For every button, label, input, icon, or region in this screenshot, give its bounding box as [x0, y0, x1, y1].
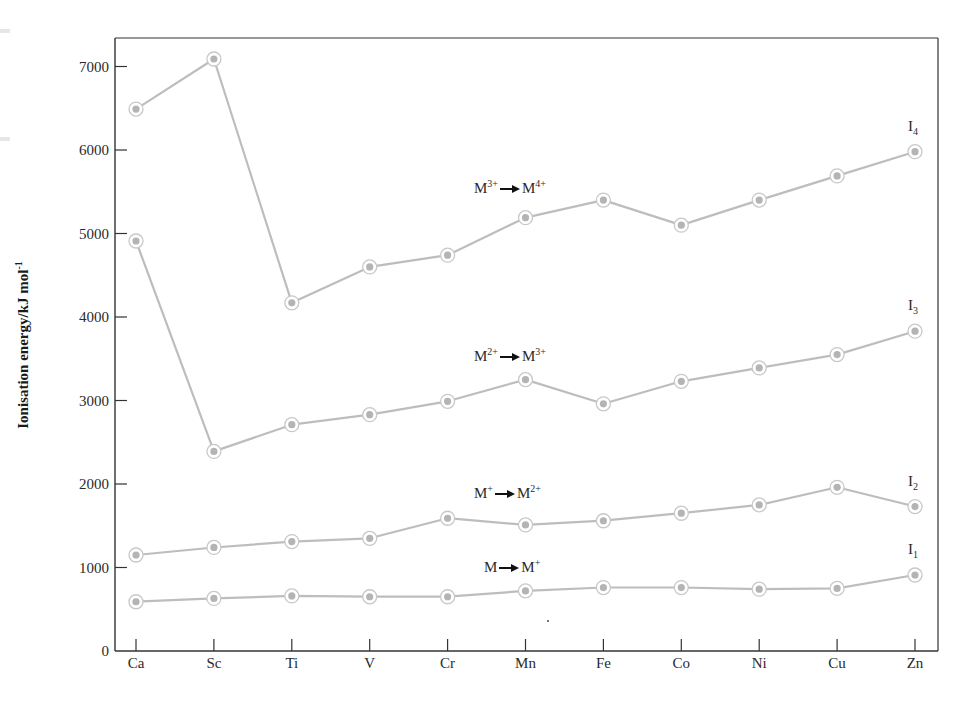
data-point-dot [911, 503, 918, 510]
scan-artifact-mark [0, 29, 10, 33]
data-point-dot [132, 551, 139, 558]
y-tick-label: 6000 [49, 142, 109, 159]
series-label-i1: I1 [908, 541, 918, 560]
x-tick-label-cu: Cu [807, 655, 867, 672]
x-tick-label-ca: Ca [106, 655, 166, 672]
data-point-dot [366, 411, 373, 418]
data-point-dot [366, 535, 373, 542]
data-point-dot [756, 586, 763, 593]
data-point-dot [288, 538, 295, 545]
y-tick-label: 3000 [49, 392, 109, 409]
data-point-dot [834, 585, 841, 592]
arrow-right-icon [500, 183, 520, 193]
data-point-dot [132, 105, 139, 112]
x-tick-label-cr: Cr [418, 655, 478, 672]
data-point-dot [600, 197, 607, 204]
y-tick-label: 5000 [49, 225, 109, 242]
data-point-dot [834, 172, 841, 179]
data-point-dot [210, 448, 217, 455]
data-point-dot [444, 515, 451, 522]
data-point-dot [522, 376, 529, 383]
data-point-dot [834, 484, 841, 491]
data-point-dot [678, 584, 685, 591]
annotation-i1: MM+ [484, 557, 540, 576]
scan-artifact-dot [547, 620, 549, 622]
data-point-dot [366, 263, 373, 270]
x-tick-label-sc: Sc [184, 655, 244, 672]
data-point-dot [288, 592, 295, 599]
x-tick-label-v: V [340, 655, 400, 672]
annotation-i2: M+M2+ [474, 483, 541, 502]
data-point-dot [444, 398, 451, 405]
data-point-dot [210, 595, 217, 602]
data-point-dot [911, 328, 918, 335]
data-point-dot [911, 571, 918, 578]
annotation-i3: M2+M3+ [474, 346, 546, 365]
data-point-dot [600, 584, 607, 591]
data-point-dot [678, 378, 685, 385]
arrow-right-icon [495, 488, 515, 498]
data-point-dot [132, 237, 139, 244]
data-point-dot [522, 521, 529, 528]
data-point-dot [366, 593, 373, 600]
arrow-right-icon [499, 562, 519, 572]
data-point-dot [678, 222, 685, 229]
y-axis-label: Ionisation energy/kJ mol-1 [13, 261, 32, 429]
data-point-dot [210, 55, 217, 62]
series-label-i3: I3 [908, 297, 918, 316]
data-point-dot [678, 510, 685, 517]
data-point-dot [600, 400, 607, 407]
x-tick-label-zn: Zn [885, 655, 945, 672]
data-point-dot [288, 421, 295, 428]
data-point-dot [834, 351, 841, 358]
scan-artifact-mark [0, 137, 10, 141]
x-tick-label-ti: Ti [262, 655, 322, 672]
y-tick-label: 1000 [49, 559, 109, 576]
y-tick-label: 0 [49, 643, 109, 660]
ionisation-energy-chart: Ionisation energy/kJ mol-1 0100020003000… [0, 0, 978, 706]
data-point-dot [522, 214, 529, 221]
y-tick-label: 2000 [49, 476, 109, 493]
series-label-i4: I4 [908, 118, 918, 137]
data-point-dot [444, 252, 451, 259]
x-tick-label-co: Co [651, 655, 711, 672]
data-point-dot [444, 593, 451, 600]
data-point-dot [522, 587, 529, 594]
data-point-dot [756, 197, 763, 204]
arrow-right-icon [500, 351, 520, 361]
data-point-dot [756, 364, 763, 371]
annotation-i4: M3+M4+ [474, 178, 546, 197]
y-tick-label: 4000 [49, 309, 109, 326]
data-point-dot [756, 501, 763, 508]
data-point-dot [600, 517, 607, 524]
series-label-i2: I2 [908, 473, 918, 492]
data-point-dot [132, 598, 139, 605]
data-point-dot [911, 148, 918, 155]
x-tick-label-mn: Mn [496, 655, 556, 672]
y-tick-label: 7000 [49, 58, 109, 75]
data-point-dot [288, 299, 295, 306]
x-tick-label-ni: Ni [729, 655, 789, 672]
x-tick-label-fe: Fe [573, 655, 633, 672]
data-point-dot [210, 544, 217, 551]
